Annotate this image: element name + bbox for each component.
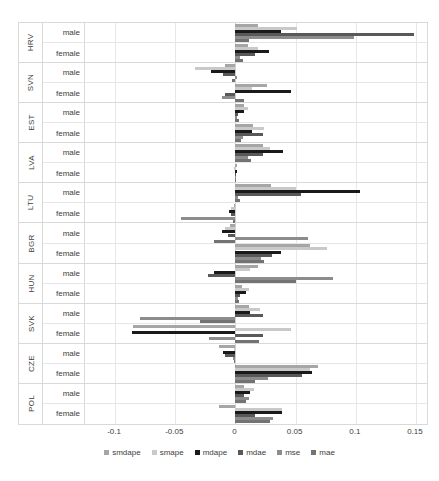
gender-row-svn-female: female xyxy=(43,83,427,103)
legend-item-mae[interactable]: mae xyxy=(311,448,335,457)
gender-label-male: male xyxy=(43,183,85,202)
gender-label-female: female xyxy=(43,83,85,103)
bar-hun-male-mdae xyxy=(208,274,235,277)
bar-hrv-female-mae xyxy=(235,59,243,62)
legend-item-mdape[interactable]: mdape xyxy=(195,448,227,457)
bar-pol-male-mae xyxy=(235,400,246,403)
gender-label-male: male xyxy=(43,224,85,243)
gender-label-male: male xyxy=(43,304,85,323)
gender-label-female: female xyxy=(43,43,85,63)
gender-label-male: male xyxy=(43,344,85,363)
bar-est-male-mae xyxy=(235,119,239,122)
bar-cluster xyxy=(85,284,427,304)
legend-label: mae xyxy=(319,448,335,457)
gender-row-cze-male: male xyxy=(43,344,427,364)
x-tick-label: 0.15 xyxy=(407,427,423,436)
country-group-cze: CZEmalefemale xyxy=(19,344,427,384)
bar-cluster xyxy=(85,43,427,63)
bar-cluster xyxy=(85,264,427,283)
legend-item-smdape[interactable]: smdape xyxy=(104,448,140,457)
bar-svk-female-smape xyxy=(235,328,290,331)
bar-est-female-mae xyxy=(235,139,240,142)
bar-lva-female-smdape xyxy=(235,164,237,167)
bar-cze-male-smdape xyxy=(219,345,235,348)
legend-label: mse xyxy=(285,448,300,457)
country-label-pol: POL xyxy=(19,384,43,424)
bar-hun-male-smape xyxy=(235,268,249,271)
bar-svn-female-mse xyxy=(222,96,235,99)
country-label-text: LVA xyxy=(27,155,36,170)
bar-cluster xyxy=(85,183,427,202)
legend-swatch-icon xyxy=(238,450,243,455)
country-label-cze: CZE xyxy=(19,344,43,383)
bar-lva-male-mae xyxy=(235,159,251,162)
gender-row-svn-male: male xyxy=(43,63,427,83)
gender-row-hun-female: female xyxy=(43,284,427,304)
bar-ltu-male-mdae xyxy=(235,193,301,196)
gender-row-est-female: female xyxy=(43,123,427,143)
bar-svn-female-mdape xyxy=(235,90,290,93)
gender-label-male: male xyxy=(43,384,85,403)
bar-hrv-male-mse xyxy=(235,36,354,39)
gender-row-hun-male: male xyxy=(43,264,427,284)
bar-svn-female-mae xyxy=(235,99,244,102)
country-label-ltu: LTU xyxy=(19,183,43,222)
country-label-hrv: HRV xyxy=(19,23,43,62)
country-label-est: EST xyxy=(19,103,43,142)
legend-swatch-icon xyxy=(311,450,316,455)
gender-label-male: male xyxy=(43,264,85,283)
bar-lva-female-mae xyxy=(235,179,236,182)
gender-label-female: female xyxy=(43,404,85,424)
country-group-hrv: HRVmalefemale xyxy=(19,23,427,63)
gender-row-est-male: male xyxy=(43,103,427,123)
x-tick-label: 0.1 xyxy=(349,427,360,436)
bar-cluster xyxy=(85,143,427,162)
legend-swatch-icon xyxy=(152,450,157,455)
bar-svk-female-mae xyxy=(235,340,258,343)
bar-ltu-female-mse xyxy=(181,217,235,220)
gender-label-female: female xyxy=(43,123,85,143)
bar-svk-female-smdape xyxy=(133,325,236,328)
x-axis-tick-labels: -0.1-0.0500.050.10.15 xyxy=(84,427,428,441)
bar-hun-female-mae xyxy=(235,300,239,303)
bar-svn-male-mse xyxy=(235,76,236,79)
bar-svk-female-mdae xyxy=(235,334,263,337)
legend-swatch-icon xyxy=(195,450,200,455)
legend-label: mdape xyxy=(203,448,227,457)
legend-swatch-icon xyxy=(104,450,109,455)
bar-ltu-female-mae xyxy=(233,220,235,223)
bar-bgr-male-mse xyxy=(235,237,307,240)
country-label-text: POL xyxy=(26,395,35,412)
bar-cluster xyxy=(85,384,427,403)
gender-row-bgr-female: female xyxy=(43,244,427,264)
legend-item-smape[interactable]: smape xyxy=(152,448,184,457)
bar-cluster xyxy=(85,364,427,384)
x-tick-label: 0.05 xyxy=(287,427,303,436)
bar-cluster xyxy=(85,63,427,82)
legend-item-mdae[interactable]: mdae xyxy=(238,448,266,457)
gender-row-cze-female: female xyxy=(43,364,427,384)
country-label-text: CZE xyxy=(27,355,36,372)
bar-svk-male-mae xyxy=(200,320,236,323)
bar-cluster xyxy=(85,324,427,344)
x-tick-label: -0.05 xyxy=(165,427,183,436)
bar-cluster xyxy=(85,244,427,264)
country-group-hun: HUNmalefemale xyxy=(19,264,427,304)
bar-cluster xyxy=(85,163,427,183)
gender-row-pol-male: male xyxy=(43,384,427,404)
gender-row-hrv-female: female xyxy=(43,43,427,63)
bar-cze-male-mae xyxy=(234,360,236,363)
bar-svn-male-mae xyxy=(232,79,235,82)
country-label-lva: LVA xyxy=(19,143,43,182)
bar-svk-female-mse xyxy=(209,337,235,340)
bar-bgr-male-mae xyxy=(214,240,235,243)
legend-swatch-icon xyxy=(277,450,282,455)
country-label-text: SVN xyxy=(26,74,35,91)
bar-pol-female-mae xyxy=(235,420,270,423)
chart-legend: smdapesmapemdapemdaemsemae xyxy=(0,448,439,457)
gender-label-male: male xyxy=(43,63,85,82)
country-group-svn: SVNmalefemale xyxy=(19,63,427,103)
country-label-svk: SVK xyxy=(19,304,43,343)
legend-item-mse[interactable]: mse xyxy=(277,448,300,457)
bar-bgr-female-mae xyxy=(235,260,264,263)
